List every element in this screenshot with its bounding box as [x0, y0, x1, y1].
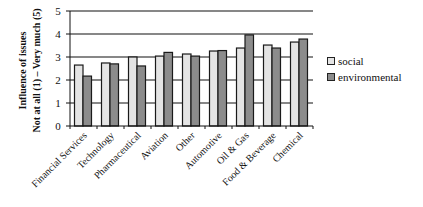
bar-social	[183, 54, 192, 126]
bar-social	[237, 48, 246, 126]
bar-social	[129, 57, 138, 126]
y-tick-label: 2	[55, 74, 61, 86]
bar-social	[75, 65, 84, 126]
y-tick-labels: 012345	[55, 5, 61, 132]
y-tick-label: 4	[55, 28, 61, 40]
y-tick-label: 3	[55, 51, 61, 63]
legend: social environmental	[327, 53, 402, 85]
svg-text:Not at all (1) – Very much (5): Not at all (1) – Very much (5)	[31, 8, 43, 132]
y-axis-label: Influence of issuesNot at all (1) – Very…	[17, 8, 43, 132]
legend-item-environmental: environmental	[327, 69, 402, 85]
legend-label-social: social	[338, 53, 364, 69]
bar-environmental	[245, 35, 254, 126]
bar-environmental	[110, 64, 119, 126]
bar-social	[264, 45, 273, 126]
bar-environmental	[83, 76, 92, 126]
bar-environmental	[272, 48, 281, 126]
y-tick-label: 1	[55, 97, 61, 109]
bar-social	[210, 51, 219, 126]
bar-environmental	[299, 39, 308, 126]
x-tick-label: Other	[173, 129, 197, 153]
legend-swatch-environmental	[327, 73, 335, 81]
y-tick-label: 0	[55, 120, 61, 132]
legend-swatch-social	[327, 57, 335, 65]
x-tick-label: Chemical	[270, 129, 305, 164]
bar-social	[102, 63, 111, 126]
bar-environmental	[164, 52, 173, 126]
bars	[75, 35, 308, 126]
x-tick-label: Aviation	[138, 130, 170, 162]
bar-social	[291, 42, 300, 126]
bar-environmental	[137, 66, 146, 126]
svg-text:Influence of issues: Influence of issues	[17, 32, 28, 110]
bar-social	[156, 56, 165, 126]
bar-environmental	[218, 51, 227, 126]
x-tick-labels: Financial ServicesTechnologyPharmaceutic…	[29, 129, 305, 189]
y-tick-label: 5	[55, 5, 61, 17]
bar-chart: Influence of issuesNot at all (1) – Very…	[0, 0, 423, 207]
legend-item-social: social	[327, 53, 402, 69]
bar-environmental	[191, 56, 200, 126]
legend-label-environmental: environmental	[338, 69, 402, 85]
